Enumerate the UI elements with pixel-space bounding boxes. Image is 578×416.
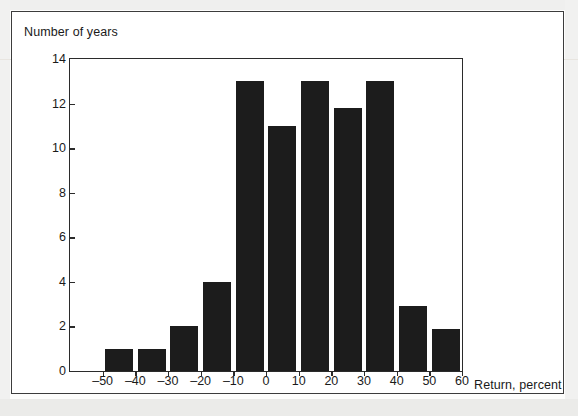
histogram-bar xyxy=(399,306,427,371)
x-axis-tick-mark xyxy=(462,371,463,376)
histogram-bar xyxy=(301,81,329,371)
y-axis-tick-label: 6 xyxy=(38,231,66,244)
x-axis-tick-mark xyxy=(429,371,430,376)
histogram-bar xyxy=(138,349,166,371)
histogram-bar xyxy=(170,326,198,371)
x-axis-tick-mark xyxy=(168,371,169,376)
y-axis-tick-label: 4 xyxy=(38,276,66,289)
x-axis-tick-mark xyxy=(331,371,332,376)
histogram-bar xyxy=(268,126,296,371)
histogram-bar xyxy=(105,349,133,371)
y-axis-tick-label: 14 xyxy=(38,53,66,66)
page-left-band xyxy=(0,0,10,416)
x-axis-tick-label: 60 xyxy=(442,375,482,388)
y-axis-tick-label: 8 xyxy=(38,186,66,199)
y-axis-tick-mark xyxy=(69,282,75,283)
x-axis-tick-mark xyxy=(233,371,234,376)
y-axis-tick-mark xyxy=(69,326,75,327)
y-axis-tick-mark xyxy=(69,193,75,194)
x-axis-tick-mark xyxy=(266,371,267,376)
y-axis-tick-label: 0 xyxy=(38,365,66,378)
histogram-bar xyxy=(236,81,264,371)
x-axis-tick-mark xyxy=(397,371,398,376)
histogram-figure: Number of years Return, percent 02468101… xyxy=(0,0,578,416)
x-axis-title: Return, percent xyxy=(474,378,562,392)
page-bottom-band xyxy=(0,399,578,416)
page-top-band xyxy=(0,0,578,10)
y-axis-tick-mark xyxy=(69,104,75,105)
histogram-bar xyxy=(432,329,460,371)
y-axis-tick-mark xyxy=(69,148,75,149)
page-right-band xyxy=(565,0,578,416)
x-axis-tick-mark xyxy=(364,371,365,376)
histogram-bar xyxy=(334,108,362,371)
y-axis-tick-label: 12 xyxy=(38,97,66,110)
histogram-bar xyxy=(366,81,394,371)
x-axis-tick-mark xyxy=(103,371,104,376)
y-axis-tick-mark xyxy=(69,237,75,238)
x-axis-tick-mark xyxy=(135,371,136,376)
y-axis-tick-label: 2 xyxy=(38,320,66,333)
bars-layer xyxy=(70,59,462,371)
x-axis-tick-mark xyxy=(201,371,202,376)
histogram-bar xyxy=(203,282,231,371)
x-axis-tick-mark xyxy=(299,371,300,376)
y-axis-tick-label: 10 xyxy=(38,142,66,155)
